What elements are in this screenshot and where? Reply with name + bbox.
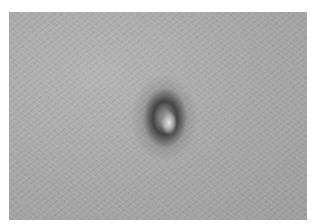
skin-lesion (121, 72, 203, 168)
skin-photo (9, 12, 307, 220)
